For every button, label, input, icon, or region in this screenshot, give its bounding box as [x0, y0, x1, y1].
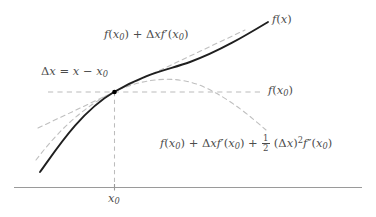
label-delta-x: Δx = x − x0 — [41, 66, 108, 79]
tangency-point-marker — [112, 90, 117, 95]
label-function-value: f(x0) — [268, 85, 293, 98]
label-second-order-taylor: f(x0) + Δxf′(x0) + 12 (Δx)2f″(x0) — [160, 134, 332, 152]
figure-canvas: f(x) f(x0) f(x0) + Δxf′(x0) f(x0) + Δxf′… — [0, 0, 376, 217]
label-x0-tick: x0 — [108, 193, 120, 206]
label-function-curve: f(x) — [272, 14, 292, 26]
label-first-order-taylor: f(x0) + Δxf′(x0) — [104, 29, 188, 42]
